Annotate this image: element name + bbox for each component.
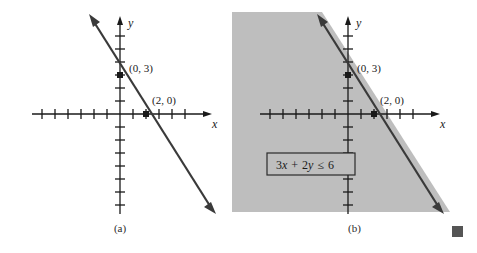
panel-b-caption: (b): [232, 222, 477, 234]
point-label-2-0: (2, 0): [380, 94, 404, 107]
point-label-2-0: (2, 0): [152, 94, 176, 107]
inequality-constant: 6: [328, 158, 334, 172]
point-marker-0-3: [117, 72, 123, 78]
x-axis-label: x: [439, 117, 446, 131]
x-axis-arrowhead: [431, 111, 440, 117]
inequality-var-y: y: [307, 158, 314, 172]
inequality-operator-plus: +: [291, 158, 298, 172]
figure-root: (0, 3) (2, 0) x y (a): [0, 0, 477, 253]
line-arrowhead-lower: [204, 202, 216, 214]
point-marker-2-0: [143, 111, 149, 117]
point-label-0-3: (0, 3): [357, 62, 381, 75]
inequality-relation: ≤: [317, 158, 324, 172]
panel-b: (0, 3) (2, 0) x y 3x+2y≤6 (b): [232, 0, 477, 253]
panel-a-graph: (0, 3) (2, 0) x y: [0, 0, 240, 220]
solution-region-shading: [232, 12, 450, 212]
panel-a-caption: (a): [0, 222, 240, 234]
end-of-example-marker: [452, 226, 463, 237]
point-label-0-3: (0, 3): [129, 62, 153, 75]
y-axis-arrowhead: [345, 16, 351, 25]
panel-a: (0, 3) (2, 0) x y (a): [0, 0, 240, 253]
line-arrowhead-upper: [89, 14, 100, 27]
x-axis-label: x: [211, 117, 218, 131]
point-marker-0-3: [345, 72, 351, 78]
point-marker-2-0: [371, 111, 377, 117]
x-axis-arrowhead: [203, 111, 212, 117]
panel-b-graph: (0, 3) (2, 0) x y 3x+2y≤6: [232, 0, 477, 220]
inequality-var-x: x: [281, 158, 288, 172]
y-axis-label: y: [355, 16, 362, 30]
y-axis-label: y: [127, 16, 134, 30]
y-axis-arrowhead: [117, 16, 123, 25]
